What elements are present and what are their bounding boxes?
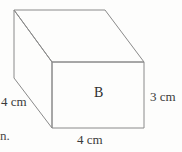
cuboid-figure: B 4 cm 3 cm 4 cm n. <box>0 0 182 152</box>
cuboid-drawing <box>0 0 182 152</box>
depth-dimension-label: 4 cm <box>1 95 27 108</box>
width-dimension-label: 4 cm <box>77 133 103 146</box>
cuboid-left-face <box>14 10 52 128</box>
height-dimension-label: 3 cm <box>150 90 176 103</box>
cropped-stray-text: n. <box>0 129 10 142</box>
face-label-b: B <box>94 86 103 100</box>
